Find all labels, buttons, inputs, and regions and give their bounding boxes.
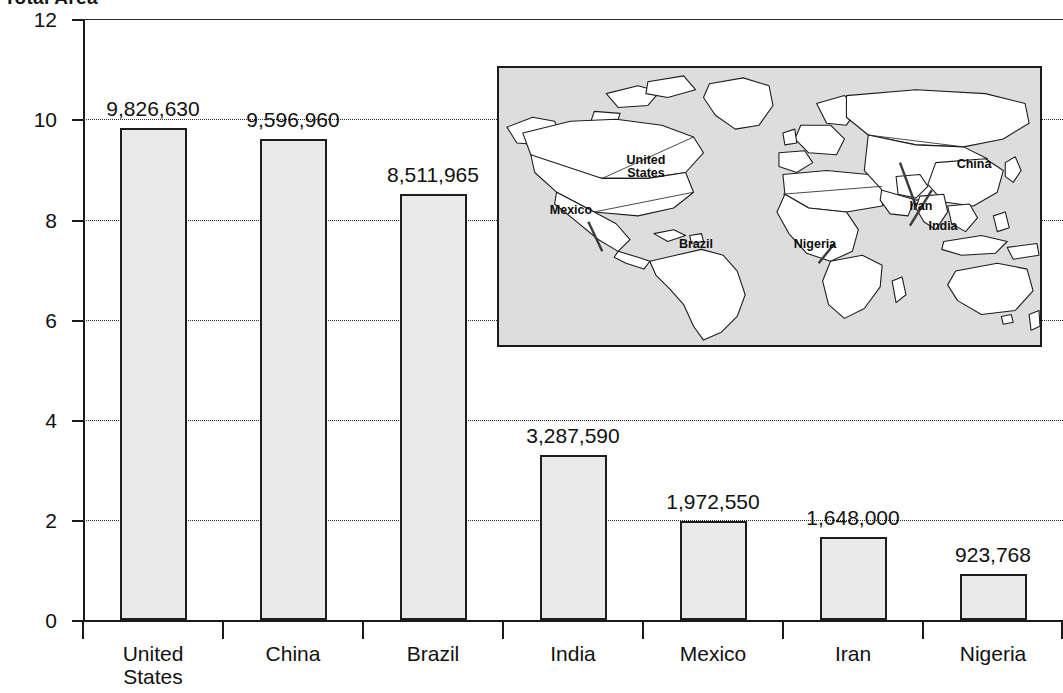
x-tick-5: [782, 621, 784, 639]
y-tick-label-4: 4: [11, 410, 57, 431]
y-tick-label-10: 10: [11, 109, 57, 130]
map-label-india: India: [917, 220, 969, 233]
map-label-brazil: Brazil: [663, 238, 729, 251]
y-tick-12: [72, 19, 83, 21]
map-label-iran: Iran: [899, 200, 943, 213]
bar-value-nigeria: 923,768: [901, 544, 1063, 565]
bar-value-china: 9,596,960: [201, 109, 385, 130]
x-label-nigeria: Nigeria: [903, 643, 1063, 666]
y-tick-2: [72, 520, 83, 522]
map-label-nigeria: Nigeria: [779, 238, 851, 251]
bar-nigeria[interactable]: [960, 574, 1027, 620]
map-label-united-states: United States: [607, 154, 685, 180]
gridline-12: [83, 19, 1063, 20]
x-label-line-2: States: [123, 665, 183, 688]
y-tick-label-12: 12: [11, 9, 57, 30]
gridline-4: [83, 420, 1063, 421]
x-tick-3: [502, 621, 504, 639]
world-map-inset: United States Mexico Brazil Nigeria Iran…: [497, 66, 1042, 347]
y-tick-4: [72, 420, 83, 422]
y-tick-label-6: 6: [11, 310, 57, 331]
map-label-mexico: Mexico: [535, 204, 607, 217]
y-tick-label-8: 8: [11, 210, 57, 231]
y-tick-label-2: 2: [11, 510, 57, 531]
bar-mexico[interactable]: [680, 521, 747, 620]
bar-value-india: 3,287,590: [481, 425, 665, 446]
map-label-china: China: [947, 158, 1001, 171]
x-tick-4: [642, 621, 644, 639]
bar-value-iran: 1,648,000: [761, 507, 945, 528]
y-tick-10: [72, 119, 83, 121]
map-label-line-1: United: [627, 153, 666, 167]
bar-india[interactable]: [540, 455, 607, 620]
x-tick-6: [922, 621, 924, 639]
x-tick-1: [222, 621, 224, 639]
bar-china[interactable]: [260, 139, 327, 620]
bar-united-states[interactable]: [120, 128, 187, 620]
map-label-line-2: States: [627, 166, 665, 180]
x-tick-2: [362, 621, 364, 639]
bar-iran[interactable]: [820, 537, 887, 620]
y-tick-8: [72, 220, 83, 222]
x-tick-0: [82, 621, 84, 639]
bar-brazil[interactable]: [400, 194, 467, 620]
y-tick-6: [72, 320, 83, 322]
x-label-line-1: United: [123, 642, 184, 665]
y-tick-label-0: 0: [11, 610, 57, 631]
